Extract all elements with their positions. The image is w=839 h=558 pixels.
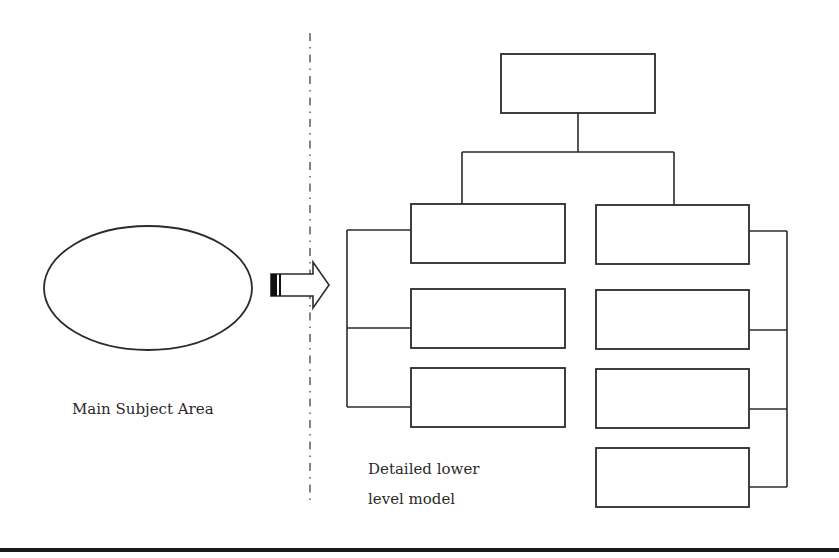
right-arrow-icon bbox=[271, 262, 329, 308]
top-entity-box bbox=[501, 54, 655, 113]
right-entity-box-3 bbox=[596, 369, 749, 428]
bottom-rule bbox=[0, 548, 839, 552]
right-entity-box-2 bbox=[596, 290, 749, 349]
main-subject-ellipse bbox=[44, 226, 252, 350]
top-connector bbox=[462, 113, 674, 205]
detailed-model-label-line1: Detailed lower bbox=[368, 454, 479, 484]
right-bracket-connector bbox=[749, 231, 787, 487]
left-entity-box-3 bbox=[411, 368, 565, 427]
left-entity-box-1 bbox=[411, 204, 565, 263]
detailed-model-label-line2: level model bbox=[368, 484, 455, 514]
main-subject-label: Main Subject Area bbox=[72, 394, 214, 424]
right-entity-box-1 bbox=[596, 205, 749, 264]
left-entity-box-2 bbox=[411, 289, 565, 348]
left-bracket-connector bbox=[347, 230, 411, 407]
right-entity-box-4 bbox=[596, 448, 749, 507]
